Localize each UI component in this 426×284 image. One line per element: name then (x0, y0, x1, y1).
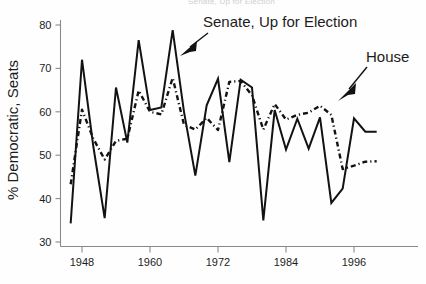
y-axis-title: % Democratic, Seats (4, 60, 21, 200)
x-tick-label: 1948 (70, 256, 94, 268)
y-tick-label: 40 (39, 193, 51, 205)
annotation-arrow-line-house (349, 67, 367, 89)
annotation-label-house: House (366, 48, 409, 65)
y-tick-label: 80 (39, 19, 51, 31)
series-line-senate (71, 30, 377, 223)
y-axis-ticks: 304050607080 (39, 19, 60, 248)
chart-figure: Senate, Up for Election 304050607080 194… (0, 0, 426, 284)
x-tick-label: 1960 (138, 256, 162, 268)
x-tick-label: 1972 (206, 256, 230, 268)
x-tick-label: 1996 (342, 256, 366, 268)
y-tick-label: 30 (39, 236, 51, 248)
x-tick-label: 1984 (274, 256, 298, 268)
annotation-label-senate: Senate, Up for Election (203, 13, 357, 30)
y-tick-label: 60 (39, 106, 51, 118)
chart-canvas: 304050607080 19481960197219841996 % Demo… (0, 0, 426, 284)
y-tick-label: 70 (39, 62, 51, 74)
y-tick-label: 50 (39, 149, 51, 161)
x-axis-ticks: 19481960197219841996 (70, 247, 366, 269)
annotation-arrow-head-house (338, 83, 356, 101)
